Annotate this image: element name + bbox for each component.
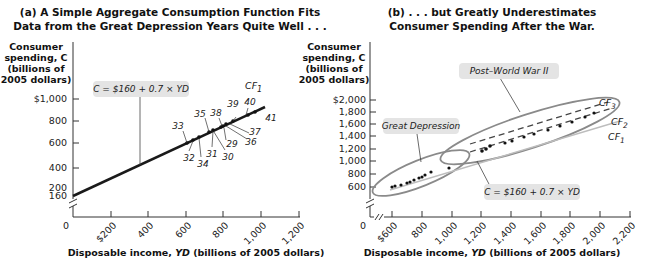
panel-a-ylabel-1: Consumer bbox=[9, 41, 63, 52]
svg-text:800: 800 bbox=[409, 220, 430, 241]
svg-text:2,200: 2,200 bbox=[610, 220, 637, 247]
svg-text:Great Depression: Great Depression bbox=[382, 121, 461, 131]
svg-text:40: 40 bbox=[244, 97, 256, 107]
svg-text:32: 32 bbox=[183, 153, 195, 163]
svg-text:800: 800 bbox=[348, 168, 366, 179]
svg-text:C = $160 + 0.7 × YD: C = $160 + 0.7 × YD bbox=[484, 187, 580, 197]
svg-text:1,600: 1,600 bbox=[521, 220, 548, 247]
svg-text:C = $160 + 0.7 × YD: C = $160 + 0.7 × YD bbox=[93, 84, 189, 94]
panel-a-title-line1: (a) A Simple Aggregate Consumption Funct… bbox=[20, 6, 320, 18]
svg-text:1,000: 1,000 bbox=[241, 220, 268, 247]
svg-text:1,400: 1,400 bbox=[339, 130, 366, 141]
panel-a-title-line2: Data from the Great Depression Years Qui… bbox=[13, 20, 326, 32]
svg-text:38: 38 bbox=[210, 108, 222, 118]
panel-a-cf1-label: CF1 bbox=[245, 80, 262, 94]
figure-canvas: (a) A Simple Aggregate Consumption Funct… bbox=[0, 0, 652, 271]
svg-text:800: 800 bbox=[210, 220, 231, 241]
svg-text:39: 39 bbox=[227, 99, 239, 109]
svg-text:1,200: 1,200 bbox=[339, 143, 366, 154]
svg-text:31: 31 bbox=[206, 149, 217, 159]
svg-text:37: 37 bbox=[249, 127, 261, 137]
svg-text:1,400: 1,400 bbox=[491, 220, 518, 247]
panel-b-x-ticks: 0 $600 800 1,000 1,200 1,400 1,600 1,800… bbox=[360, 211, 637, 247]
svg-text:1,200: 1,200 bbox=[461, 220, 488, 247]
svg-text:$2,000: $2,000 bbox=[333, 94, 366, 105]
svg-text:1,600: 1,600 bbox=[339, 118, 366, 129]
great-depression-callout: Great Depression bbox=[382, 118, 461, 162]
panel-a: (a) A Simple Aggregate Consumption Funct… bbox=[1, 6, 327, 258]
great-depression-ellipse bbox=[368, 141, 474, 204]
panel-b-ylabel-1: Consumer bbox=[307, 41, 361, 52]
panel-b-equation-callout: C = $160 + 0.7 × YD bbox=[477, 161, 580, 200]
svg-text:600: 600 bbox=[49, 137, 67, 148]
panel-a-ylabel-3: (billions of bbox=[7, 63, 65, 74]
panel-a-y-ticks: $1,000 800 600 400 200 160 bbox=[34, 93, 79, 201]
svg-text:33: 33 bbox=[172, 121, 184, 131]
svg-text:41: 41 bbox=[265, 113, 276, 123]
svg-text:29: 29 bbox=[226, 139, 238, 149]
panel-b-title-line1: (b) . . . but Greatly Underestimates bbox=[388, 6, 597, 18]
panel-b-cf2-label: CF2 bbox=[611, 116, 628, 130]
svg-text:1,200: 1,200 bbox=[279, 220, 306, 247]
svg-text:30: 30 bbox=[222, 152, 234, 162]
svg-text:600: 600 bbox=[173, 220, 194, 241]
panel-a-origin: 0 bbox=[63, 220, 69, 231]
panel-a-xlabel: Disposable income, YD (billions of 2005 … bbox=[68, 247, 325, 258]
panel-b-ylabel-2: spending, C bbox=[302, 52, 365, 63]
panel-b: (b) . . . but Greatly Underestimates Con… bbox=[299, 6, 638, 258]
panel-b-ylabel-4: 2005 dollars) bbox=[299, 74, 370, 85]
svg-text:35: 35 bbox=[194, 109, 206, 119]
panel-a-x-ticks: 0 $200 400 600 800 1,000 1,200 bbox=[63, 211, 306, 247]
svg-text:400: 400 bbox=[49, 162, 67, 173]
panel-a-ylabel-4: 2005 dollars) bbox=[1, 74, 72, 85]
svg-text:600: 600 bbox=[348, 181, 366, 192]
post-war-callout: Post–World War II bbox=[459, 63, 559, 112]
svg-text:1,800: 1,800 bbox=[550, 220, 577, 247]
svg-text:400: 400 bbox=[135, 220, 156, 241]
panel-b-x-axis-break-icon bbox=[375, 214, 383, 220]
svg-text:1,000: 1,000 bbox=[339, 155, 366, 166]
panel-b-cf3-line bbox=[470, 102, 608, 144]
svg-text:2,000: 2,000 bbox=[580, 220, 607, 247]
svg-text:800: 800 bbox=[49, 115, 67, 126]
panel-b-title-line2: Consumer Spending After the War. bbox=[389, 20, 594, 32]
svg-text:Post–World War II: Post–World War II bbox=[470, 66, 549, 76]
svg-text:$200: $200 bbox=[94, 220, 119, 245]
svg-text:160: 160 bbox=[49, 190, 67, 201]
svg-text:1,800: 1,800 bbox=[339, 106, 366, 117]
panel-a-cf1-line bbox=[73, 107, 265, 196]
svg-text:$600: $600 bbox=[375, 220, 400, 245]
svg-text:$1,000: $1,000 bbox=[34, 93, 67, 104]
panel-a-ylabel-2: spending, C bbox=[4, 52, 67, 63]
svg-text:34: 34 bbox=[197, 159, 209, 169]
svg-text:1,000: 1,000 bbox=[432, 220, 459, 247]
panel-b-ylabel-3: (billions of bbox=[305, 63, 363, 74]
panel-b-cf1-label: CF1 bbox=[608, 131, 625, 145]
panel-b-xlabel: Disposable income, YD (billions of 2005 … bbox=[364, 247, 621, 258]
panel-b-origin: 0 bbox=[360, 220, 366, 231]
svg-text:36: 36 bbox=[245, 137, 257, 147]
